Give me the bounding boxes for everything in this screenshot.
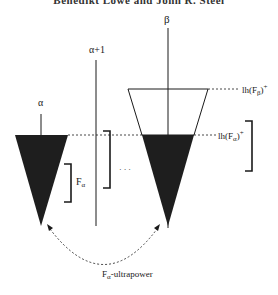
lh-top-base: lh(F: [242, 85, 257, 95]
ultrapower-arc: [50, 229, 157, 265]
lh-mid-base: lh(F: [218, 131, 233, 141]
ellipsis-label: · · ·: [119, 166, 131, 174]
beta-model-triangle: [142, 135, 194, 226]
lh-mid-label: lh(Fα)+: [218, 130, 244, 143]
lh-top-label: lh(Fβ)+: [242, 84, 268, 97]
ultrapower-caption: Fα-ultrapower: [102, 270, 153, 281]
lh-mid-sup: +: [240, 129, 244, 137]
caption-rest: -ultrapower: [111, 269, 153, 279]
ultrapower-diagram: [0, 0, 278, 295]
arc-arrowhead-left-icon: [47, 224, 53, 231]
alpha-plus-one-label: α+1: [89, 45, 105, 55]
f-alpha-bracket: [64, 164, 71, 202]
f-alpha-sub: α: [82, 181, 86, 189]
alpha-label: α: [38, 98, 43, 108]
middle-bracket: [103, 131, 110, 188]
lh-top-sup: +: [264, 83, 268, 91]
arc-arrowhead-right-icon: [154, 224, 160, 231]
alpha-model-triangle: [15, 135, 68, 226]
f-alpha-label: Fα: [76, 177, 85, 189]
right-bracket: [245, 121, 252, 171]
beta-label: β: [164, 14, 170, 25]
